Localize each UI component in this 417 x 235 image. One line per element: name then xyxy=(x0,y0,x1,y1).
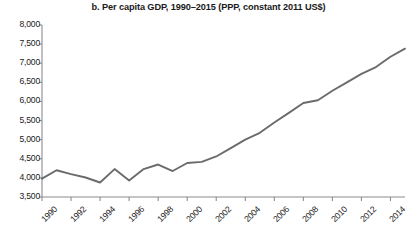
x-axis-tick-label: 1990 xyxy=(10,204,59,235)
x-axis-labels: 1990199219941996199820002002200420062008… xyxy=(0,0,417,235)
chart-container: b. Per capita GDP, 1990–2015 (PPP, const… xyxy=(0,0,417,235)
